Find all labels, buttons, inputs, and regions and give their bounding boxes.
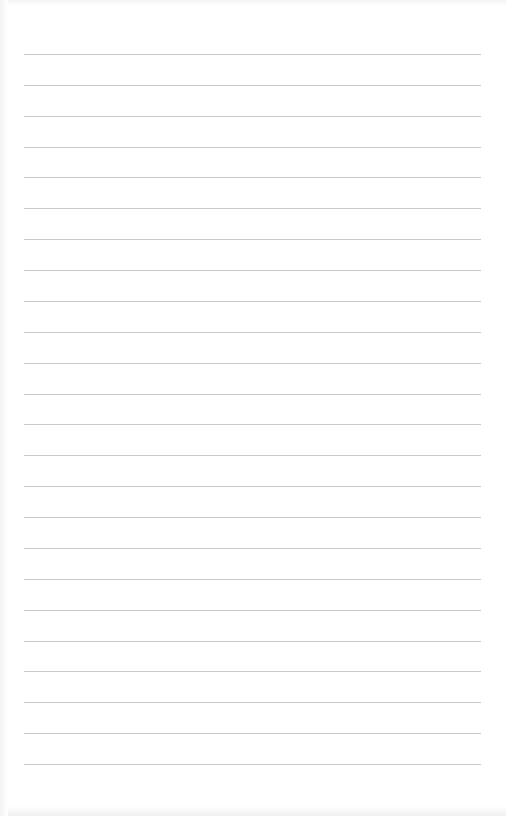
ruled-line	[24, 424, 481, 425]
ruled-line	[24, 455, 481, 456]
ruled-line	[24, 147, 481, 148]
ruled-line	[24, 301, 481, 302]
ruled-line	[24, 764, 481, 765]
ruled-line	[24, 177, 481, 178]
ruled-line	[24, 363, 481, 364]
ruled-line	[24, 548, 481, 549]
ruled-line	[24, 517, 481, 518]
ruled-line	[24, 610, 481, 611]
ruled-line	[24, 579, 481, 580]
ruled-line	[24, 486, 481, 487]
ruled-line	[24, 54, 481, 55]
ruled-line	[24, 394, 481, 395]
ruled-line	[24, 641, 481, 642]
ruled-line	[24, 85, 481, 86]
ruled-line	[24, 702, 481, 703]
ruled-line	[24, 332, 481, 333]
lined-paper-page	[0, 0, 506, 816]
ruled-line	[24, 733, 481, 734]
ruled-line	[24, 208, 481, 209]
ruled-line	[24, 671, 481, 672]
ruled-line	[24, 116, 481, 117]
ruled-line	[24, 270, 481, 271]
ruled-line	[24, 239, 481, 240]
